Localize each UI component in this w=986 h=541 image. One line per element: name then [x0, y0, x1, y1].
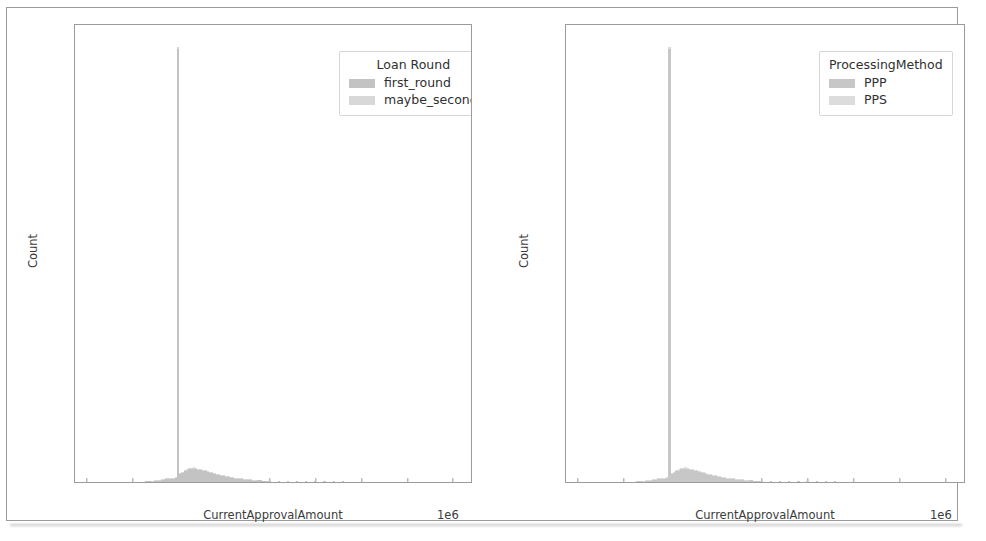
- histogram-bar: [908, 482, 910, 483]
- x-tick-label: 2: [174, 482, 181, 483]
- y-tick-label: 0: [565, 476, 566, 483]
- histogram-bar: [305, 481, 307, 482]
- plot-area: 0200400600800100012001400 012345678 Proc…: [565, 24, 965, 483]
- histogram-bar: [834, 481, 836, 482]
- y-axis-label: Count: [26, 221, 40, 281]
- x-tick-label: 3: [220, 482, 227, 483]
- x-tick-label: 8: [449, 482, 456, 483]
- y-tick-label: 800: [565, 237, 566, 249]
- x-axis-offset-text: 1e6: [437, 508, 459, 522]
- histogram-bar: [944, 482, 946, 483]
- legend-item[interactable]: PPP: [829, 76, 943, 90]
- histogram-bar: [333, 481, 335, 482]
- y-tick-label: 800: [74, 237, 75, 249]
- x-tick-label: 6: [850, 482, 857, 483]
- x-tick-mark: [900, 478, 901, 482]
- x-tick-label: 2: [666, 482, 673, 483]
- y-tick-label: 1400: [565, 58, 566, 70]
- histogram-bar: [360, 482, 362, 483]
- y-tick-label: 1200: [74, 118, 75, 130]
- y-tick-label: 200: [565, 417, 566, 429]
- x-tick-mark: [623, 478, 624, 482]
- histogram-bar: [378, 482, 380, 483]
- legend-item-label: maybe_second: [384, 93, 472, 107]
- x-tick-label: 7: [403, 482, 410, 483]
- plot-area: 0200400600800100012001400 012345678 Loan…: [74, 24, 472, 483]
- figure-screenshot: Count CurrentApprovalAmount 1e6 02004006…: [0, 0, 986, 541]
- legend-swatch-icon: [349, 79, 375, 88]
- legend-swatch-icon: [829, 96, 855, 105]
- histogram-bar: [287, 481, 289, 482]
- histogram-bar: [278, 481, 280, 482]
- x-axis-label: CurrentApprovalAmount: [565, 508, 965, 522]
- y-tick-label: 600: [565, 297, 566, 309]
- x-tick-label: 7: [896, 482, 903, 483]
- histogram-bar: [760, 481, 762, 482]
- histogram-bar: [397, 482, 399, 483]
- y-tick-label: 1400: [74, 58, 75, 70]
- histogram-bar: [268, 481, 270, 482]
- legend-item[interactable]: first_round: [349, 76, 472, 90]
- histogram-bar: [351, 482, 353, 483]
- histogram-bar: [177, 47, 179, 48]
- x-tick-label: 5: [312, 482, 319, 483]
- histogram-bar: [296, 481, 298, 482]
- x-tick-label: 0: [83, 482, 90, 483]
- x-tick-label: 0: [574, 482, 581, 483]
- legend-item-label: PPS: [864, 93, 887, 107]
- legend-item-label: PPP: [864, 76, 887, 90]
- x-axis-label: CurrentApprovalAmount: [74, 508, 472, 522]
- x-tick-mark: [132, 478, 133, 482]
- histogram-bar: [770, 481, 772, 482]
- legend-swatch-icon: [349, 96, 375, 105]
- y-tick-label: 400: [565, 357, 566, 369]
- histogram-bar: [816, 481, 818, 482]
- y-tick-label: 1000: [565, 178, 566, 190]
- x-tick-label: 6: [357, 482, 364, 483]
- x-tick-label: 5: [804, 482, 811, 483]
- y-tick-label: 600: [74, 297, 75, 309]
- histogram-bar: [871, 482, 873, 483]
- histogram-bar: [342, 481, 344, 482]
- x-tick-label: 8: [942, 482, 949, 483]
- histogram-bar: [433, 482, 435, 483]
- subplot-panel-processing-method: Count CurrentApprovalAmount 1e6 02004006…: [493, 8, 959, 522]
- y-tick-label: 1200: [565, 118, 566, 130]
- histogram-bar: [415, 482, 417, 483]
- histogram-bar: [852, 482, 854, 483]
- histogram-bar: [779, 481, 781, 482]
- histogram-bar: [323, 481, 325, 482]
- figure-drop-shadow: [10, 524, 962, 527]
- x-tick-mark: [86, 478, 87, 482]
- histogram-bar: [788, 481, 790, 482]
- x-tick-label: 1: [620, 482, 627, 483]
- legend-title: ProcessingMethod: [829, 57, 943, 72]
- legend-item[interactable]: PPS: [829, 93, 943, 107]
- histogram-bar: [668, 49, 670, 482]
- y-tick-label: 0: [74, 476, 75, 483]
- histogram-bar: [926, 482, 928, 483]
- figure-output-frame: Count CurrentApprovalAmount 1e6 02004006…: [6, 7, 958, 521]
- histogram-bar: [843, 482, 845, 483]
- legend-processing-method: ProcessingMethod PPP PPS: [819, 51, 953, 116]
- y-axis-label: Count: [517, 221, 531, 281]
- y-tick-label: 400: [74, 357, 75, 369]
- histogram-bar: [177, 49, 179, 482]
- legend-item[interactable]: maybe_second: [349, 93, 472, 107]
- histogram-bar: [797, 481, 799, 482]
- legend-loan-round: Loan Round first_round maybe_second: [339, 51, 472, 116]
- x-tick-label: 4: [758, 482, 765, 483]
- legend-swatch-icon: [829, 79, 855, 88]
- x-tick-label: 1: [129, 482, 136, 483]
- histogram-bar: [825, 481, 827, 482]
- histogram-bar: [889, 482, 891, 483]
- histogram-bar: [452, 482, 454, 483]
- x-tick-label: 4: [266, 482, 273, 483]
- x-tick-mark: [407, 478, 408, 482]
- y-tick-label: 200: [74, 417, 75, 429]
- subplot-panel-loan-round: Count CurrentApprovalAmount 1e6 02004006…: [7, 8, 493, 522]
- histogram-bar: [668, 47, 670, 48]
- x-tick-mark: [577, 478, 578, 482]
- legend-item-label: first_round: [384, 76, 451, 90]
- y-tick-label: 1000: [74, 178, 75, 190]
